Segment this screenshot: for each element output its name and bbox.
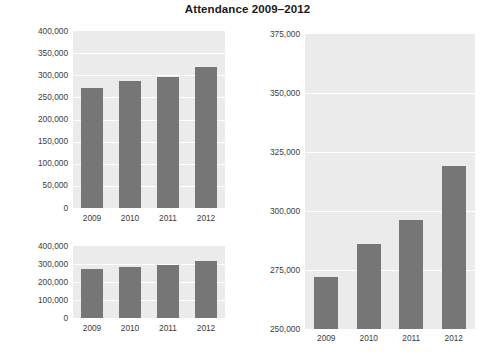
x-axis-tick-label: 2011: [390, 333, 433, 343]
y-axis-tick-label: 300,000: [270, 207, 300, 216]
y-axis-tick-label: 0: [63, 314, 68, 323]
y-axis-tick-label: 200,000: [38, 115, 68, 124]
y-axis-tick-label: 150,000: [38, 137, 68, 146]
page-title: Attendance 2009–2012: [0, 3, 495, 15]
plot-area-top-left: [73, 31, 225, 208]
bar-2012: [195, 67, 217, 208]
y-axis-tick-label: 50,000: [43, 181, 68, 190]
y-axis-tick-label: 250,000: [270, 325, 300, 334]
y-axis-tick-label: 0: [63, 204, 68, 213]
bar-2011: [157, 77, 179, 208]
x-axis-top-left: 2009201020112012: [73, 212, 225, 226]
y-axis-tick-label: 300,000: [38, 71, 68, 80]
x-axis-tick-label: 2010: [111, 323, 149, 333]
x-axis-tick-label: 2012: [433, 333, 476, 343]
x-axis-tick-label: 2009: [73, 323, 111, 333]
y-axis-tick-label: 300,000: [38, 260, 68, 269]
x-axis-tick-label: 2012: [187, 213, 225, 223]
x-axis-tick-label: 2010: [111, 213, 149, 223]
x-axis-tick-label: 2012: [187, 323, 225, 333]
bar-2010: [357, 244, 381, 329]
bar-2011: [157, 265, 179, 318]
bar-2010: [119, 81, 141, 208]
x-axis-tick-label: 2011: [149, 213, 187, 223]
bar-2010: [119, 267, 141, 318]
y-axis-tick-label: 275,000: [270, 266, 300, 275]
bar-2012: [195, 261, 217, 318]
bar-2009: [314, 277, 338, 329]
plot-area-bottom-left: [73, 246, 225, 318]
x-axis-tick-label: 2010: [348, 333, 391, 343]
gridline: [73, 53, 225, 54]
bar-2011: [399, 220, 423, 329]
y-axis-tick-label: 100,000: [38, 296, 68, 305]
y-axis-tick-label: 400,000: [38, 242, 68, 251]
x-axis-tick-label: 2009: [305, 333, 348, 343]
x-axis-bottom-left: 2009201020112012: [73, 322, 225, 336]
x-axis-tick-label: 2009: [73, 213, 111, 223]
gridline: [305, 152, 475, 153]
y-axis-tick-label: 325,000: [270, 148, 300, 157]
gridline: [305, 93, 475, 94]
y-axis-tick-label: 350,000: [270, 89, 300, 98]
bar-2009: [81, 88, 103, 208]
chart-panel-right: 250,000275,000300,000325,000350,000375,0…: [250, 22, 495, 352]
y-axis-tick-label: 375,000: [270, 30, 300, 39]
bar-2012: [442, 166, 466, 329]
y-axis-tick-label: 400,000: [38, 27, 68, 36]
y-axis-tick-label: 100,000: [38, 159, 68, 168]
y-axis-tick-label: 350,000: [38, 49, 68, 58]
chart-panel-bottom-left: 0100,000200,000300,000400,000 2009201020…: [0, 240, 240, 350]
chart-panel-top-left: 050,000100,000150,000200,000250,000300,0…: [0, 22, 240, 232]
x-axis-tick-label: 2011: [149, 323, 187, 333]
y-axis-tick-label: 250,000: [38, 93, 68, 102]
y-axis-tick-label: 200,000: [38, 278, 68, 287]
x-axis-right: 2009201020112012: [305, 332, 475, 346]
bar-2009: [81, 269, 103, 318]
plot-area-right: [305, 34, 475, 329]
